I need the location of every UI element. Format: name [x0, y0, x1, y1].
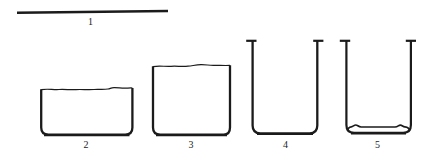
label-item-1: 1: [88, 17, 93, 27]
label-item-4: 4: [283, 140, 288, 150]
tall-beaker-figure: [246, 41, 323, 135]
glassware-diagram: 1 2 3 4 5: [0, 0, 435, 156]
label-item-2: 2: [84, 140, 89, 150]
wide-low-beaker-figure: [41, 88, 132, 136]
low-beaker-figure: [153, 65, 230, 136]
tall-beaker-with-residue-figure: [340, 41, 416, 134]
glass-rod-figure: [17, 11, 168, 13]
residue-layer: [348, 125, 410, 131]
glassware-line-art: [0, 0, 435, 156]
label-item-5: 5: [375, 140, 380, 150]
label-item-3: 3: [189, 140, 194, 150]
